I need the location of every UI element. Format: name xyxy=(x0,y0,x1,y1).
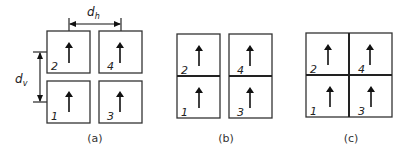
horizontal-spacing-dimension: dh xyxy=(69,5,121,31)
cell-1: 1 xyxy=(47,81,90,123)
cell-number: 4 xyxy=(107,60,114,73)
cell-2: 2 xyxy=(47,31,90,73)
panel-c-caption: (c) xyxy=(344,132,359,145)
vertical-spacing-dimension: dv xyxy=(15,52,47,102)
cell-3-number: 3 xyxy=(237,106,244,119)
dh-label: dh xyxy=(87,5,100,21)
panel-a-caption: (a) xyxy=(87,132,102,145)
cell-3-number: 3 xyxy=(358,105,365,118)
dv-label: dv xyxy=(15,72,28,88)
cell-number: 1 xyxy=(51,110,58,123)
cell-4-number: 4 xyxy=(358,63,365,76)
cell-1-number: 1 xyxy=(310,105,317,118)
cell-2-number: 2 xyxy=(310,63,317,76)
panel-a: dh dv 2 4 1 xyxy=(15,5,142,145)
cell-4: 4 xyxy=(99,31,142,73)
cell-2-number: 2 xyxy=(181,64,188,77)
cell-number: 3 xyxy=(107,110,114,123)
panel-b-caption: (b) xyxy=(218,132,234,145)
figure-canvas: dh dv 2 4 1 xyxy=(0,0,412,155)
cell-4-number: 4 xyxy=(237,64,244,77)
panel-c: 2 4 1 3 (c) xyxy=(306,33,392,145)
cell-number: 2 xyxy=(51,60,58,73)
panel-b: 2 4 1 3 (b) xyxy=(177,34,272,145)
cell-3: 3 xyxy=(99,81,142,123)
cell-1-number: 1 xyxy=(181,106,188,119)
